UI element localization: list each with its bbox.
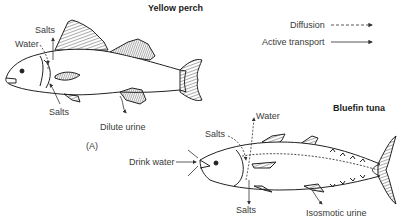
tuna-title: Bluefin tuna [333,103,385,113]
tuna-drink-water-label: Drink water [129,157,175,167]
perch-salts-top-label: Salts [35,25,55,35]
panel-label: (A) [86,141,98,151]
tuna-urine-label: Isosmotic urine [306,208,367,218]
perch-title: Yellow perch [148,3,203,13]
tuna-salts-top-label: Salts [205,129,225,139]
perch-water-label: Water [15,39,39,49]
tuna-water-label: Water [256,111,280,121]
tuna-salts-bottom-label: Salts [236,205,256,215]
legend-active-transport-label: Active transport [262,37,325,47]
perch-salts-bottom-label: Salts [49,107,69,117]
legend-diffusion-label: Diffusion [290,20,325,30]
perch-urine-label: Dilute urine [100,122,146,132]
legend-arrows [331,25,372,42]
bluefin-tuna-drawing [200,134,396,204]
